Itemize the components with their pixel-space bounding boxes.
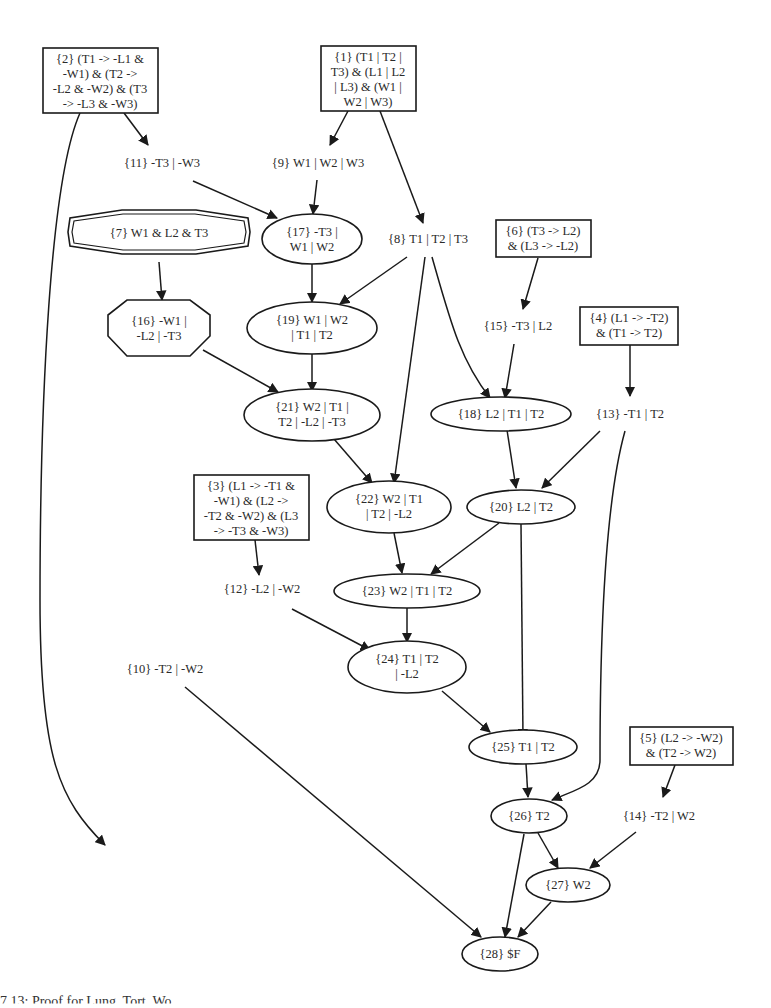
edge-15-18 (505, 344, 514, 398)
edge-1-9 (330, 111, 348, 145)
svg-text:{7} W1 & L2 & T3: {7} W1 & L2 & T3 (110, 226, 209, 240)
edge-27-28 (518, 902, 551, 937)
edge-24-25 (442, 691, 490, 732)
svg-text:{21} W2 | T1 |T2 | -L2 | -T3: {21} W2 | T1 |T2 | -L2 | -T3 (275, 400, 349, 429)
svg-text:{17} -T3 |W1 | W2: {17} -T3 |W1 | W2 (286, 225, 337, 254)
edge-7-16 (159, 262, 162, 300)
node-10: {10} -T2 | -W2 (127, 662, 204, 676)
svg-text:{3} (L1 -> -T1 &-W1) & (L2 ->-: {3} (L1 -> -T1 &-W1) & (L2 ->-T2 & -W2) … (204, 479, 298, 538)
edge-2-11 (124, 113, 148, 145)
edge-3-12 (255, 540, 259, 575)
node-21: {21} W2 | T1 |T2 | -L2 | -T3 (244, 389, 380, 441)
svg-text:{27} W2: {27} W2 (545, 878, 590, 892)
proof-graph: {2} (T1 -> -L1 &-W1) & (T2 ->-L2 & -W2) … (0, 0, 771, 1008)
svg-text:{6} (T3 -> L2)& (L3 -> -L2): {6} (T3 -> L2)& (L3 -> -L2) (506, 224, 581, 253)
edge-8-19 (340, 257, 407, 304)
svg-text:{2} (T1 -> -L1 &-W1) & (T2 ->-: {2} (T1 -> -L1 &-W1) & (T2 ->-L2 & -W2) … (53, 52, 147, 111)
edge-18-20 (507, 430, 516, 488)
svg-text:{25} T1 | T2: {25} T1 | T2 (491, 740, 555, 754)
edge-13-20 (542, 431, 600, 488)
node-9: {9} W1 | W2 | W3 (272, 156, 364, 170)
edge-8-22 (394, 257, 425, 483)
edge-25-26 (526, 764, 528, 797)
node-16: {16} -W1 |-L2 | -T3 (108, 300, 210, 356)
node-3: {3} (L1 -> -T1 &-W1) & (L2 ->-T2 & -W2) … (194, 475, 309, 540)
node-19: {19} W1 | W2| T1 | T2 (247, 302, 377, 354)
svg-text:{20} L2 | T2: {20} L2 | T2 (489, 500, 553, 514)
edge-22-23 (394, 533, 402, 573)
node-4: {4} (L1 -> -T2)& (T1 -> T2) (580, 307, 678, 345)
node-20: {20} L2 | T2 (467, 490, 575, 524)
svg-text:{28} $F: {28} $F (480, 947, 521, 961)
edge-8-18 (432, 257, 490, 398)
edge-20-25 (521, 524, 523, 738)
node-6: {6} (T3 -> L2)& (L3 -> -L2) (496, 220, 591, 257)
node-26: {26} T2 (491, 799, 567, 833)
edge-26-27 (538, 833, 558, 868)
node-2: {2} (T1 -> -L1 &-W1) & (T2 ->-L2 & -W2) … (43, 48, 158, 113)
edge-14-27 (590, 832, 636, 868)
node-17: {17} -T3 |W1 | W2 (262, 214, 362, 264)
edge-5-14 (663, 765, 675, 797)
node-28: {28} $F (462, 937, 538, 971)
node-25: {25} T1 | T2 (469, 730, 577, 764)
svg-text:{23} W2 | T1 | T2: {23} W2 | T1 | T2 (362, 584, 452, 598)
node-14: {14} -T2 | W2 (623, 809, 695, 823)
edge-20-23 (431, 523, 499, 574)
node-24: {24} T1 | T2| -L2 (348, 641, 466, 693)
svg-text:{16} -W1 |-L2 | -T3: {16} -W1 |-L2 | -T3 (131, 314, 186, 343)
edge-12-24 (292, 609, 370, 650)
edge-16-21 (203, 350, 278, 392)
edge-21-22 (334, 439, 372, 483)
node-22: {22} W2 | T1| T2 | -L2 (327, 481, 451, 533)
node-18: {18} L2 | T1 | T2 (431, 397, 571, 431)
node-11: {11} -T3 | -W3 (124, 156, 200, 170)
svg-text:{18} L2 | T1 | T2: {18} L2 | T1 | T2 (458, 407, 544, 421)
edge-10-28 (185, 687, 481, 937)
node-12: {12} -L2 | -W2 (224, 582, 301, 596)
node-27: {27} W2 (526, 868, 610, 902)
edge-6-15 (523, 258, 538, 309)
nodes: {2} (T1 -> -L1 &-W1) & (T2 ->-L2 & -W2) … (43, 46, 733, 971)
node-8: {8} T1 | T2 | T3 (388, 232, 468, 246)
node-15: {15} -T3 | L2 (484, 319, 552, 333)
node-7: {7} W1 & L2 & T3 (68, 210, 250, 254)
svg-text:{5} (L2 -> -W2)& (T2 -> W2): {5} (L2 -> -W2)& (T2 -> W2) (639, 731, 722, 760)
node-5: {5} (L2 -> -W2)& (T2 -> W2) (630, 727, 733, 765)
edge-1-8 (380, 111, 423, 223)
node-23: {23} W2 | T1 | T2 (334, 574, 480, 608)
edge-9-17 (313, 180, 317, 214)
edge-26-28 (505, 834, 524, 937)
svg-text:{4} (L1 -> -T2)& (T1 -> T2): {4} (L1 -> -T2)& (T1 -> T2) (589, 311, 668, 340)
node-1: {1} (T1 | T2 |T3) & (L1 | L2| L3) & (W1 … (321, 46, 416, 111)
svg-text:{26} T2: {26} T2 (508, 809, 549, 823)
node-13: {13} -T1 | T2 (596, 407, 664, 421)
